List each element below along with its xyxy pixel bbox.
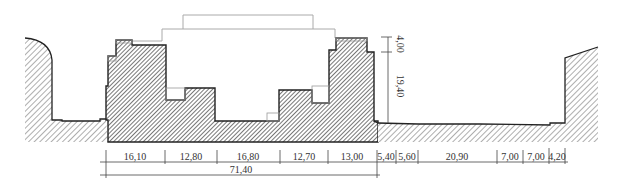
dim-label: 4,20 [548,151,566,162]
dim-label: 16,10 [124,151,147,162]
vertical-dim-4-00: 4,00 [395,35,406,53]
left-terrain [25,38,108,142]
dim-label: 5,40 [377,151,395,162]
cross-section-drawing: 4,00 19,40 16,10 12,80 16,80 12,70 13,00… [0,0,628,192]
vertical-dimension [381,37,392,123]
vertical-dim-19-40: 19,40 [395,75,406,98]
dim-label: 12,80 [180,151,203,162]
dim-label: 20,90 [446,151,469,162]
building-mass [106,38,378,142]
dim-label: 7,00 [501,151,519,162]
total-dim-label: 71,40 [230,164,253,175]
right-terrain-outline [374,47,598,125]
dim-label: 16,80 [237,151,260,162]
dim-label: 7,00 [527,151,545,162]
horizontal-dimension-line [100,148,568,178]
dim-label: 5,60 [398,151,416,162]
dim-label: 13,00 [341,151,364,162]
ghost-outline [130,15,335,41]
dim-label: 12,70 [293,151,316,162]
